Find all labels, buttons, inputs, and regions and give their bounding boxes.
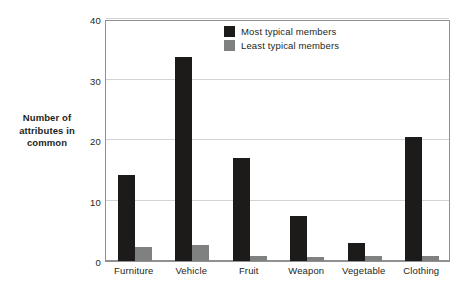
bar-group (106, 21, 164, 261)
bar-group (164, 21, 222, 261)
x-tick-label-weapon: Weapon (288, 265, 324, 276)
bar-most-typical (348, 243, 365, 261)
bar-group (279, 21, 337, 261)
y-tick-label-20: 20 (71, 136, 101, 147)
legend-label-least-typical: Least typical members (241, 41, 339, 51)
y-axis-ticks: 010203040 (68, 20, 101, 262)
bar-least-typical (365, 256, 382, 261)
legend-item-most-typical: Most typical members (224, 26, 339, 37)
x-tick-label-vegetable: Vegetable (342, 265, 386, 276)
legend-item-least-typical: Least typical members (224, 40, 339, 51)
bar-least-typical (135, 247, 152, 261)
bar-most-typical (233, 158, 250, 261)
bar-most-typical (118, 175, 135, 261)
gridline-40 (106, 18, 449, 19)
bar-least-typical (422, 256, 439, 261)
legend: Most typical members Least typical membe… (224, 26, 339, 51)
bar-most-typical (175, 57, 192, 261)
bar-chart: Number of attributes in common 010203040… (0, 0, 469, 293)
bars-layer (106, 21, 449, 261)
bar-least-typical (307, 257, 324, 261)
y-tick-label-30: 30 (71, 75, 101, 86)
x-axis-ticks: FurnitureVehicleFruitWeaponVegetableClot… (105, 265, 450, 285)
y-tick-label-0: 0 (71, 257, 101, 268)
bar-group (336, 21, 394, 261)
x-tick-label-fruit: Fruit (239, 265, 259, 276)
plot-area (105, 20, 450, 262)
y-tick-label-40: 40 (71, 15, 101, 26)
x-tick-label-vehicle: Vehicle (175, 265, 207, 276)
bar-least-typical (250, 256, 267, 261)
bar-least-typical (192, 245, 209, 261)
legend-swatch-most-typical (224, 26, 235, 37)
bar-group (394, 21, 452, 261)
x-tick-label-clothing: Clothing (403, 265, 439, 276)
bar-most-typical (290, 216, 307, 261)
bar-most-typical (405, 137, 422, 261)
legend-label-most-typical: Most typical members (241, 27, 336, 37)
y-tick-label-10: 10 (71, 196, 101, 207)
legend-swatch-least-typical (224, 40, 235, 51)
bar-group (221, 21, 279, 261)
x-tick-label-furniture: Furniture (114, 265, 153, 276)
